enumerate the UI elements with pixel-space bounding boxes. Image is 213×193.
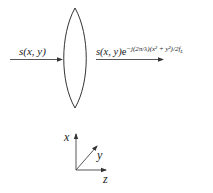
- input-label: s(x, y): [19, 45, 46, 58]
- x-axis-label: x: [63, 130, 70, 144]
- output-label: s(x, y)e−j(2π/λ)(x² + y²)/2fL: [96, 45, 183, 58]
- y-axis-label: y: [96, 148, 103, 162]
- lens-diagram: s(x, y) s(x, y)e−j(2π/λ)(x² + y²)/2fL x …: [0, 0, 213, 193]
- lens: [64, 8, 87, 108]
- coordinate-axes: x y z: [63, 130, 108, 186]
- z-axis-label: z: [102, 172, 108, 186]
- y-axis: [76, 146, 97, 170]
